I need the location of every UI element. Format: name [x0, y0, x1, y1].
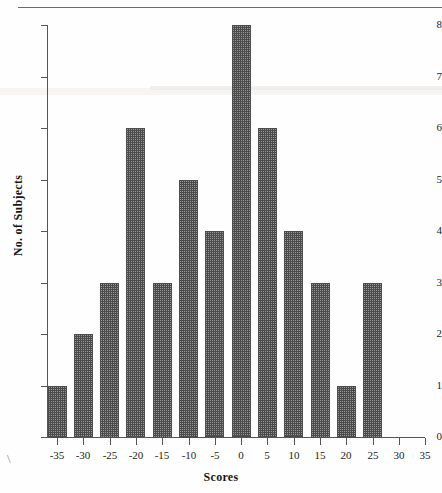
y-axis-tick-label: 7 — [420, 71, 442, 82]
x-axis-tick-mark — [294, 438, 295, 445]
y-axis-tick-label: 3 — [420, 277, 442, 288]
y-axis-tick-label: 1 — [420, 380, 442, 391]
y-axis-tick-mark — [41, 283, 48, 284]
histogram-bar — [284, 231, 303, 437]
histogram-bar — [100, 283, 119, 438]
y-axis-tick-mark — [41, 128, 48, 129]
x-axis-tick-mark — [215, 438, 216, 445]
y-axis-tick-mark — [41, 334, 48, 335]
x-axis-tick-mark — [425, 438, 426, 445]
histogram-bar — [337, 386, 356, 438]
histogram-bar — [179, 180, 198, 438]
histogram-bar — [48, 386, 67, 438]
histogram-bar — [258, 128, 277, 437]
y-axis-tick-mark — [41, 77, 48, 78]
y-axis-tick-label: 4 — [420, 225, 442, 236]
x-axis-tick-mark — [110, 438, 111, 445]
histogram-figure: 012345678 -35-30-25-20-15-10-50510152025… — [0, 0, 442, 493]
histogram-bar — [363, 283, 382, 438]
scan-artifact-glyph: \ — [7, 452, 13, 465]
x-axis-tick-mark — [241, 438, 242, 445]
x-axis-title: Scores — [0, 470, 442, 485]
y-axis-tick-label: 2 — [420, 328, 442, 339]
y-axis-tick-mark — [41, 180, 48, 181]
y-axis-tick-label: 8 — [420, 19, 442, 30]
x-axis-tick-mark — [267, 438, 268, 445]
histogram-bar — [205, 231, 224, 437]
y-axis-tick-label: 5 — [420, 174, 442, 185]
y-axis-tick-mark — [41, 437, 48, 438]
x-axis-tick-mark — [346, 438, 347, 445]
y-axis-tick-mark — [41, 25, 48, 26]
y-axis-tick-mark — [41, 231, 48, 232]
x-axis-tick-mark — [320, 438, 321, 445]
x-axis-tick-mark — [373, 438, 374, 445]
y-axis-tick-label: 0 — [420, 431, 442, 442]
x-axis-tick-mark — [57, 438, 58, 445]
histogram-bar — [126, 128, 145, 437]
x-axis-tick-mark — [136, 438, 137, 445]
y-axis-tick-label: 6 — [420, 122, 442, 133]
x-axis-tick-mark — [162, 438, 163, 445]
x-axis-tick-mark — [83, 438, 84, 445]
scan-artifact-mark: \ — [7, 452, 13, 478]
plot-area: 012345678 -35-30-25-20-15-10-50510152025… — [0, 0, 442, 493]
x-axis-tick-mark — [189, 438, 190, 445]
y-axis-title: No. of Subjects — [11, 136, 26, 296]
histogram-bar — [74, 334, 93, 437]
x-axis-tick-label: 35 — [408, 449, 442, 461]
histogram-bar — [153, 283, 172, 438]
y-axis-tick-mark — [41, 386, 48, 387]
histogram-bar — [232, 25, 251, 437]
histogram-bar — [311, 283, 330, 438]
x-axis-tick-mark — [399, 438, 400, 445]
